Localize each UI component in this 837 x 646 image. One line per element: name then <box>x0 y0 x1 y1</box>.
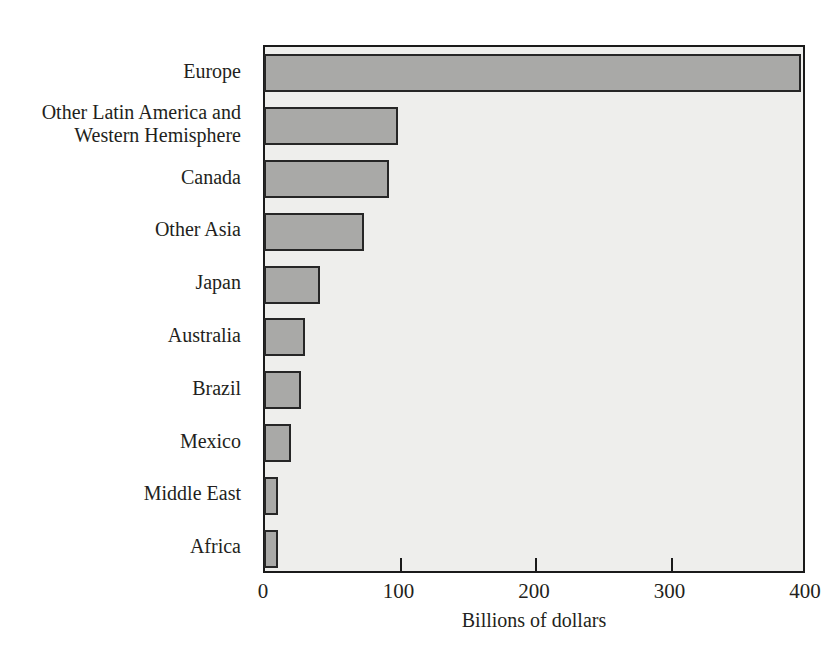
bar <box>264 318 305 356</box>
bar-row <box>265 417 803 470</box>
category-label: Europe <box>0 60 253 83</box>
bar <box>264 54 801 92</box>
category-label: Mexico <box>0 430 253 453</box>
bar-row <box>265 364 803 417</box>
bar <box>264 477 278 515</box>
bar-row <box>265 469 803 522</box>
x-axis-tick-label: 100 <box>383 578 415 604</box>
category-label: Japan <box>0 271 253 294</box>
bar <box>264 107 398 145</box>
bar <box>264 213 364 251</box>
category-label: Canada <box>0 166 253 189</box>
bar-row <box>265 100 803 153</box>
x-axis-tick-label: 300 <box>654 578 686 604</box>
category-label: Brazil <box>0 377 253 400</box>
x-axis-tick-label: 0 <box>258 578 269 604</box>
x-axis-tick <box>400 558 402 571</box>
category-axis-labels: EuropeOther Latin America and Western He… <box>0 45 253 573</box>
category-label: Middle East <box>0 482 253 505</box>
x-axis-tick <box>535 558 537 571</box>
bar-row <box>265 522 803 575</box>
x-axis-tick-label: 200 <box>518 578 550 604</box>
bar-row <box>265 47 803 100</box>
bar-row <box>265 153 803 206</box>
x-axis-tick <box>671 558 673 571</box>
bar-row <box>265 205 803 258</box>
category-label: Other Latin America and Western Hemisphe… <box>0 101 253 147</box>
category-label: Africa <box>0 535 253 558</box>
category-label: Other Asia <box>0 218 253 241</box>
bar-row <box>265 258 803 311</box>
bar <box>264 160 389 198</box>
bar <box>264 371 301 409</box>
bar <box>264 424 291 462</box>
bar-chart-figure: EuropeOther Latin America and Western He… <box>0 0 837 646</box>
category-label: Australia <box>0 324 253 347</box>
x-axis-tick-label: 400 <box>789 578 821 604</box>
bar <box>264 530 278 568</box>
x-axis-tick-labels: 0100200300400 <box>263 578 805 608</box>
bar <box>264 266 320 304</box>
plot-area <box>263 45 805 573</box>
bar-row <box>265 311 803 364</box>
x-axis-title: Billions of dollars <box>263 608 805 632</box>
